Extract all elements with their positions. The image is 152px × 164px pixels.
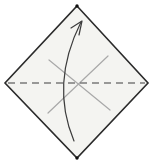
bottom-corner-dot — [75, 156, 78, 159]
origami-step-diagram — [0, 0, 152, 164]
top-corner-dot — [75, 4, 78, 7]
origami-diagram-svg — [0, 0, 152, 164]
